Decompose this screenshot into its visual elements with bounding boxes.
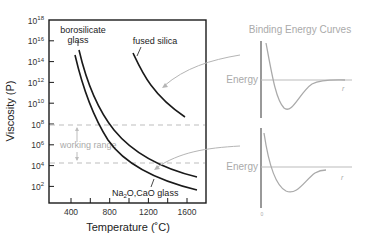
y-axis-ticks [49,41,54,187]
inset-arrows [156,55,240,168]
soda-lime-label: Na2O,CaO glass [112,188,179,199]
y-tick-label: 106 [31,140,44,151]
working-range-label: working range [59,140,117,150]
origin-label: 0 [261,211,264,217]
x-axis-title: Temperature (˚C) [86,221,170,233]
lower-energy-label: Energy [226,161,258,172]
y-tick-label: 1016 [28,36,45,47]
y-tick-label: 1012 [28,77,45,88]
y-tick-label: 102 [31,181,44,192]
lower-energy-curve [264,133,326,192]
borosilicate-label-line1: borosilicate [60,25,106,35]
y-tick-label: 1014 [28,57,45,68]
plot-frame [49,20,206,203]
borosilicate-label-line2: glass [67,35,89,45]
inset-title: Binding Energy Curves [249,24,351,35]
fused-silica-curve [133,53,185,117]
upper-energy-curve [266,43,345,109]
lower-r-label: r [341,174,344,181]
y-axis-title: Viscosity (P) [4,81,16,142]
fused-silica-label: fused silica [133,36,178,46]
x-tick-label: 800 [103,207,117,217]
upper-r-label: r [342,85,345,92]
viscosity-figure: 1018 1016 1014 1012 1010 108 106 104 102… [0,0,365,239]
y-tick-label: 1010 [28,98,45,109]
fused-silica-leader [137,47,141,56]
x-axis-ticks [71,198,187,203]
y-tick-label: 104 [31,161,44,172]
soda-lime-leader [151,179,154,187]
x-tick-label: 1200 [139,207,158,217]
y-tick-label: 1018 [28,15,45,26]
upper-energy-label: Energy [226,74,258,85]
x-axis-tick-labels: 400 800 1200 1600 [64,207,197,217]
x-tick-label: 400 [64,207,78,217]
y-tick-label: 108 [31,119,44,130]
y-axis-tick-labels: 1018 1016 1014 1012 1010 108 106 104 102 [28,15,45,192]
x-tick-label: 1600 [178,207,197,217]
